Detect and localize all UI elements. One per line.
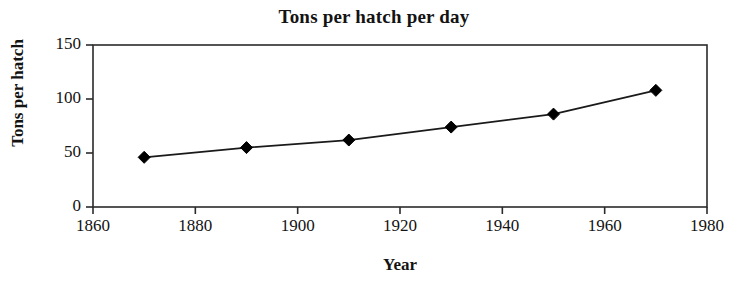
- axis-frame: [93, 45, 707, 207]
- x-tick-label: 1900: [263, 216, 333, 236]
- x-tick-label: 1880: [160, 216, 230, 236]
- y-tick-marks: [86, 45, 93, 207]
- x-tick-label: 1960: [570, 216, 640, 236]
- data-markers: [138, 84, 662, 163]
- data-point-marker: [138, 151, 150, 163]
- data-point-marker: [445, 121, 457, 133]
- y-tick-label: 50: [23, 142, 81, 162]
- chart-figure: Tons per hatch per day Tons per hatch Ye…: [0, 0, 748, 285]
- data-point-marker: [241, 142, 253, 154]
- data-point-marker: [650, 84, 662, 96]
- data-point-marker: [548, 108, 560, 120]
- x-tick-label: 1940: [467, 216, 537, 236]
- x-tick-label: 1860: [58, 216, 128, 236]
- y-tick-label: 0: [23, 196, 81, 216]
- x-tick-label: 1920: [365, 216, 435, 236]
- data-line: [144, 90, 656, 157]
- x-tick-marks: [93, 207, 707, 214]
- data-point-marker: [343, 134, 355, 146]
- x-tick-label: 1980: [672, 216, 742, 236]
- y-tick-label: 100: [23, 88, 81, 108]
- plot-area: [0, 0, 748, 285]
- plot-frame: [93, 45, 707, 207]
- y-tick-label: 150: [23, 34, 81, 54]
